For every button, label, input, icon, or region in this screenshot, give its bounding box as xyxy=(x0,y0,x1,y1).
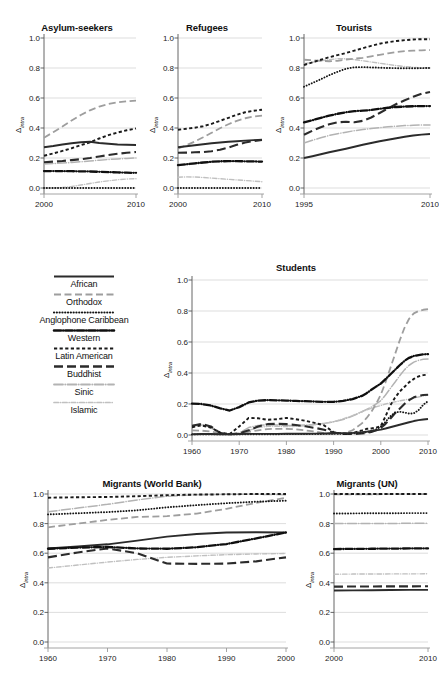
y-tick-label: 0.8 xyxy=(166,307,188,316)
x-tick-label: 2000 xyxy=(277,654,295,663)
y-axis-label: Δintra xyxy=(304,572,315,588)
legend-line-swatch xyxy=(53,290,115,297)
legend-item-label: Anglophone Caribbean xyxy=(18,315,150,326)
y-tick-label: 0.2 xyxy=(166,400,188,409)
legend: AfricanOrthodoxAnglophone CaribbeanWeste… xyxy=(18,272,150,462)
y-axis-label: Δintra xyxy=(162,361,173,377)
legend-line-swatch xyxy=(53,326,115,333)
series-line xyxy=(178,177,262,182)
plot-area xyxy=(158,262,434,462)
x-tick-label: 1980 xyxy=(158,654,176,663)
series-line xyxy=(334,548,428,549)
legend-item-anglophone-caribbean[interactable]: Anglophone Caribbean xyxy=(18,308,150,326)
y-tick-label: 0.8 xyxy=(152,64,174,73)
legend-item-western[interactable]: Western xyxy=(18,326,150,344)
y-tick-label: 0.0 xyxy=(308,638,330,647)
y-tick-label: 0.6 xyxy=(308,549,330,558)
legend-item-islamic[interactable]: Islamic xyxy=(18,398,150,416)
panel-refugees: Refugees 0.00.20.40.60.81.020002010Δintr… xyxy=(148,22,266,212)
series-line xyxy=(192,359,428,434)
panel-asylum-seekers: Asylum-seekers 0.00.20.40.60.81.02000201… xyxy=(14,22,140,212)
legend-line-swatch xyxy=(53,308,115,315)
legend-item-sinic[interactable]: Sinic xyxy=(18,380,150,398)
series-line xyxy=(178,161,262,165)
y-tick-label: 0.6 xyxy=(18,94,40,103)
y-tick-label: 1.0 xyxy=(308,490,330,499)
y-axis-label: Δintra xyxy=(18,572,29,588)
x-tick-label: 1960 xyxy=(39,654,57,663)
y-tick-label: 0.0 xyxy=(278,184,300,193)
series-line xyxy=(178,116,262,149)
y-tick-label: 0.6 xyxy=(22,549,44,558)
legend-line-swatch xyxy=(53,398,115,405)
x-tick-label: 2010 xyxy=(127,200,145,209)
legend-item-label: Western xyxy=(18,333,150,344)
x-tick-label: 2010 xyxy=(419,654,437,663)
x-tick-label: 1970 xyxy=(230,447,248,456)
x-tick-label: 1970 xyxy=(99,654,117,663)
y-tick-label: 0.8 xyxy=(278,64,300,73)
x-tick-label: 1990 xyxy=(218,654,236,663)
y-tick-label: 0.2 xyxy=(152,154,174,163)
panel-tourists: Tourists 0.00.20.40.60.81.019952010Δintr… xyxy=(274,22,434,212)
series-line xyxy=(48,494,286,498)
y-tick-label: 1.0 xyxy=(22,490,44,499)
y-tick-label: 0.8 xyxy=(308,519,330,528)
x-tick-label: 2010 xyxy=(253,200,271,209)
y-tick-label: 0.2 xyxy=(18,154,40,163)
y-tick-label: 0.0 xyxy=(152,184,174,193)
panel-migrants-world-bank: Migrants (World Bank) 0.00.20.40.60.81.0… xyxy=(14,478,290,664)
x-tick-label: 1960 xyxy=(183,447,201,456)
legend-item-label: Buddhist xyxy=(18,369,150,380)
y-tick-label: 0.2 xyxy=(22,608,44,617)
y-tick-label: 1.0 xyxy=(18,34,40,43)
legend-line-swatch xyxy=(53,362,115,369)
y-axis-label: Δintra xyxy=(274,117,285,133)
panel-students: Students 0.00.20.40.60.81.01960197019801… xyxy=(158,262,434,462)
y-tick-label: 0.6 xyxy=(278,94,300,103)
y-tick-label: 0.0 xyxy=(22,638,44,647)
x-tick-label: 1995 xyxy=(295,200,313,209)
y-tick-label: 0.0 xyxy=(18,184,40,193)
series-line xyxy=(48,554,286,569)
plot-area xyxy=(300,478,434,664)
y-tick-label: 0.6 xyxy=(166,338,188,347)
x-tick-label: 2000 xyxy=(35,200,53,209)
y-tick-label: 0.2 xyxy=(308,608,330,617)
y-tick-label: 1.0 xyxy=(152,34,174,43)
plot-area xyxy=(14,478,290,664)
y-tick-label: 0.2 xyxy=(278,154,300,163)
y-tick-label: 0.8 xyxy=(22,519,44,528)
legend-item-label: Latin American xyxy=(18,351,150,362)
x-tick-label: 2000 xyxy=(325,654,343,663)
y-axis-label: Δintra xyxy=(148,117,159,133)
legend-item-label: Islamic xyxy=(18,405,150,416)
legend-line-swatch xyxy=(53,272,115,279)
series-line xyxy=(44,101,136,138)
x-tick-label: 2010 xyxy=(421,200,439,209)
legend-item-label: Sinic xyxy=(18,387,150,398)
panel-migrants-un: Migrants (UN) 0.00.20.40.60.81.020002010… xyxy=(300,478,434,664)
series-line xyxy=(178,110,262,130)
legend-item-buddhist[interactable]: Buddhist xyxy=(18,362,150,380)
x-tick-label: 1980 xyxy=(277,447,295,456)
y-tick-label: 1.0 xyxy=(278,34,300,43)
series-line xyxy=(48,548,286,563)
series-line xyxy=(44,179,136,188)
legend-line-swatch xyxy=(53,344,115,351)
y-tick-label: 0.0 xyxy=(166,431,188,440)
legend-item-latin-american[interactable]: Latin American xyxy=(18,344,150,362)
legend-item-label: African xyxy=(18,279,150,290)
series-line xyxy=(192,401,428,434)
series-line xyxy=(334,590,428,591)
legend-item-orthodox[interactable]: Orthodox xyxy=(18,290,150,308)
series-line xyxy=(44,171,136,173)
x-tick-label: 1990 xyxy=(325,447,343,456)
y-tick-label: 0.6 xyxy=(152,94,174,103)
x-tick-label: 2000 xyxy=(372,447,390,456)
legend-item-african[interactable]: African xyxy=(18,272,150,290)
y-tick-label: 1.0 xyxy=(166,276,188,285)
series-line xyxy=(44,142,136,147)
legend-line-swatch xyxy=(53,380,115,387)
